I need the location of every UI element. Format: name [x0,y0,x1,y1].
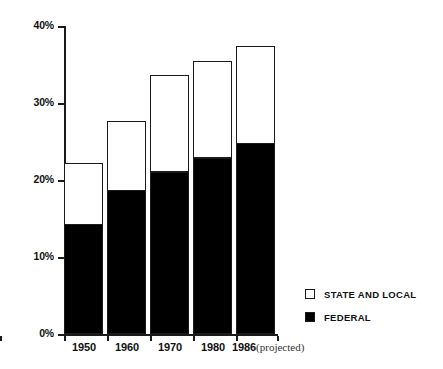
open-square-icon [305,289,315,299]
y-tick-label-10: 10% [34,250,54,262]
legend-item-state-and-local[interactable]: STATE AND LOCAL [305,288,440,300]
x-axis-label-1980-year: 1980 [201,341,225,353]
y-tick-40: 40% [58,26,64,28]
chart-legend: STATE AND LOCAL FEDERAL [305,288,440,334]
bar-1986-federal-segment [237,144,274,333]
bar-1960-federal-segment [108,191,145,333]
bar-1970-federal-segment [151,173,188,333]
y-tick-label-40: 40% [34,19,54,31]
x-axis-label-1950-year: 1950 [72,341,96,353]
stacked-bar-chart: 40% 30% 20% 10% 0% [0,0,443,369]
y-tick-label-0: 0% [39,327,54,339]
bar-1986-divider [237,143,274,145]
legend-label-federal: FEDERAL [324,312,371,323]
plot-area: 40% 30% 20% 10% 0% [0,0,300,369]
bar-1980-divider [194,157,231,159]
x-axis-label-1950: 1950 [60,341,108,353]
x-tick-1 [0,336,2,341]
bar-1980-federal-segment [194,159,231,333]
bar-1960-divider [108,190,145,192]
y-tick-label-30: 30% [34,96,54,108]
bar-1950-divider [65,224,102,226]
x-axis-label-1986-note: (projected) [256,341,304,353]
x-axis-label-1970-year: 1970 [158,341,182,353]
x-axis-label-1970: 1970 [146,341,194,353]
bar-1986[interactable] [236,46,275,334]
x-axis-line [64,334,278,336]
legend-label-state-and-local: STATE AND LOCAL [324,289,416,300]
x-axis-label-1986-year: 1986 [232,341,256,353]
y-tick-30: 30% [58,103,64,105]
bar-1950[interactable] [64,163,103,334]
bar-1960[interactable] [107,121,146,334]
x-axis-label-1980: 1980 [189,341,237,353]
bar-1970-divider [151,171,188,173]
bar-1980[interactable] [193,61,232,334]
bar-1950-federal-segment [65,225,102,333]
x-axis-label-1960: 1960 [103,341,151,353]
y-tick-label-20: 20% [34,173,54,185]
legend-item-federal[interactable]: FEDERAL [305,311,440,323]
x-axis-label-1986: 1986(projected) [232,341,362,353]
filled-square-icon [305,312,315,322]
bar-1970[interactable] [150,75,189,334]
x-axis-label-1960-year: 1960 [115,341,139,353]
